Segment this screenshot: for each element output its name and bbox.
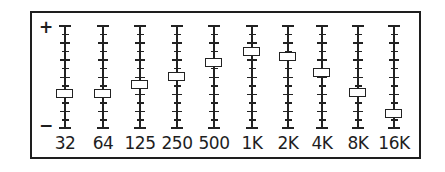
tick-mark bbox=[172, 94, 182, 96]
tick-mark bbox=[283, 111, 293, 113]
band-label-125: 125 bbox=[125, 133, 156, 153]
tick-mark bbox=[353, 42, 363, 44]
slider-knob[interactable] bbox=[131, 80, 148, 89]
tick-mark bbox=[135, 77, 145, 79]
tick-mark bbox=[391, 102, 398, 104]
tick-mark bbox=[249, 102, 256, 104]
tick-mark bbox=[319, 51, 326, 53]
tick-mark bbox=[211, 85, 218, 87]
slider-knob[interactable] bbox=[205, 58, 222, 67]
tick-mark bbox=[355, 34, 362, 36]
tick-mark bbox=[285, 102, 292, 104]
track-top-cap bbox=[59, 25, 71, 27]
tick-mark bbox=[211, 34, 218, 36]
tick-mark bbox=[391, 85, 398, 87]
tick-mark bbox=[62, 85, 69, 87]
tick-mark bbox=[174, 68, 181, 70]
slider-knob[interactable] bbox=[94, 89, 111, 98]
tick-mark bbox=[100, 119, 107, 121]
tick-mark bbox=[172, 42, 182, 44]
tick-mark bbox=[211, 51, 218, 53]
tick-mark bbox=[137, 68, 144, 70]
track-bottom-cap bbox=[97, 127, 109, 129]
track-top-cap bbox=[134, 25, 146, 27]
tick-mark bbox=[209, 42, 219, 44]
tick-mark bbox=[174, 51, 181, 53]
tick-mark bbox=[319, 85, 326, 87]
tick-mark bbox=[100, 51, 107, 53]
track-bottom-cap bbox=[246, 127, 258, 129]
tick-mark bbox=[137, 51, 144, 53]
slider-knob[interactable] bbox=[243, 47, 260, 56]
slider-knob[interactable] bbox=[279, 52, 296, 61]
track-bottom-cap bbox=[388, 127, 400, 129]
tick-mark bbox=[355, 119, 362, 121]
tick-mark bbox=[319, 119, 326, 121]
band-label-32: 32 bbox=[55, 133, 76, 153]
tick-mark bbox=[283, 94, 293, 96]
tick-mark bbox=[98, 59, 108, 61]
tick-mark bbox=[317, 59, 327, 61]
tick-mark bbox=[60, 59, 70, 61]
tick-mark bbox=[100, 102, 107, 104]
slider-knob[interactable] bbox=[313, 68, 330, 77]
tick-mark bbox=[355, 102, 362, 104]
tick-mark bbox=[172, 111, 182, 113]
tick-mark bbox=[135, 42, 145, 44]
slider-knob[interactable] bbox=[385, 109, 402, 118]
tick-mark bbox=[209, 94, 219, 96]
tick-mark bbox=[62, 51, 69, 53]
band-label-2k: 2K bbox=[278, 133, 299, 153]
tick-mark bbox=[391, 34, 398, 36]
tick-mark bbox=[100, 34, 107, 36]
tick-mark bbox=[211, 68, 218, 70]
tick-mark bbox=[62, 119, 69, 121]
tick-mark bbox=[285, 34, 292, 36]
slider-knob[interactable] bbox=[168, 72, 185, 81]
tick-mark bbox=[211, 119, 218, 121]
tick-mark bbox=[98, 77, 108, 79]
band-label-250: 250 bbox=[162, 133, 193, 153]
tick-mark bbox=[98, 111, 108, 113]
track-bottom-cap bbox=[352, 127, 364, 129]
tick-mark bbox=[355, 68, 362, 70]
tick-mark bbox=[174, 85, 181, 87]
tick-mark bbox=[283, 42, 293, 44]
tick-mark bbox=[355, 51, 362, 53]
band-label-64: 64 bbox=[93, 133, 114, 153]
tick-mark bbox=[317, 111, 327, 113]
tick-mark bbox=[319, 102, 326, 104]
slider-knob[interactable] bbox=[56, 89, 73, 98]
tick-mark bbox=[389, 94, 399, 96]
tick-mark bbox=[389, 42, 399, 44]
tick-mark bbox=[249, 68, 256, 70]
tick-mark bbox=[319, 34, 326, 36]
tick-mark bbox=[209, 111, 219, 113]
slider-knob[interactable] bbox=[349, 88, 366, 97]
track-top-cap bbox=[246, 25, 258, 27]
tick-mark bbox=[172, 59, 182, 61]
tick-mark bbox=[353, 77, 363, 79]
tick-mark bbox=[135, 111, 145, 113]
tick-mark bbox=[137, 34, 144, 36]
tick-mark bbox=[137, 102, 144, 104]
track-top-cap bbox=[171, 25, 183, 27]
track-bottom-cap bbox=[59, 127, 71, 129]
band-label-16k: 16K bbox=[378, 133, 409, 153]
track-top-cap bbox=[282, 25, 294, 27]
tick-mark bbox=[174, 34, 181, 36]
track-bottom-cap bbox=[134, 127, 146, 129]
tick-mark bbox=[247, 77, 257, 79]
tick-mark bbox=[60, 111, 70, 113]
tick-mark bbox=[355, 85, 362, 87]
tick-mark bbox=[283, 77, 293, 79]
tick-mark bbox=[249, 34, 256, 36]
tick-mark bbox=[249, 85, 256, 87]
tick-mark bbox=[211, 102, 218, 104]
tick-mark bbox=[100, 85, 107, 87]
tick-mark bbox=[317, 42, 327, 44]
track-top-cap bbox=[316, 25, 328, 27]
track-top-cap bbox=[97, 25, 109, 27]
tick-mark bbox=[285, 119, 292, 121]
tick-mark bbox=[62, 34, 69, 36]
